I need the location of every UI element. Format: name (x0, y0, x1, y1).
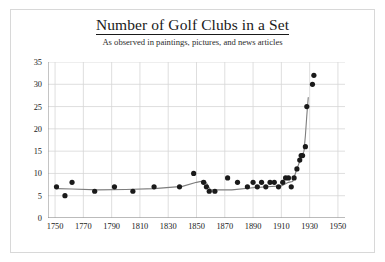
data-point (69, 180, 74, 185)
data-point (291, 175, 296, 180)
data-point (250, 180, 255, 185)
chart-title: Number of Golf Clubs in a Set (0, 16, 385, 34)
x-axis-tick-label: 1950 (318, 222, 358, 231)
y-axis-tick-label: 20 (18, 124, 42, 133)
data-point (311, 73, 316, 78)
data-point (304, 104, 309, 109)
data-point (289, 184, 294, 189)
y-axis-tick-label: 25 (18, 102, 42, 111)
data-point (294, 166, 299, 171)
y-axis-tick-label: 35 (18, 58, 42, 67)
data-point (151, 184, 156, 189)
gridlines (48, 62, 345, 218)
trend-line (56, 98, 308, 190)
y-axis-tick-label: 10 (18, 169, 42, 178)
data-point (276, 184, 281, 189)
data-point (263, 184, 268, 189)
data-point (272, 180, 277, 185)
chart-subtitle: As observed in paintings, pictures, and … (0, 37, 385, 47)
y-axis-tick-label: 5 (18, 191, 42, 200)
data-point (204, 184, 209, 189)
data-point (207, 189, 212, 194)
data-point (303, 144, 308, 149)
data-point (54, 184, 59, 189)
data-point (310, 82, 315, 87)
data-point (225, 175, 230, 180)
data-point (130, 189, 135, 194)
y-axis-tick-label: 30 (18, 80, 42, 89)
data-point (201, 180, 206, 185)
data-point (245, 184, 250, 189)
data-point (191, 171, 196, 176)
y-axis-tick-label: 15 (18, 147, 42, 156)
data-point (255, 184, 260, 189)
data-point (177, 184, 182, 189)
data-point (92, 189, 97, 194)
data-point (235, 180, 240, 185)
chart-title-text: Number of Golf Clubs in a Set (96, 16, 289, 35)
data-point (62, 193, 67, 198)
data-points (54, 73, 317, 199)
data-point (212, 189, 217, 194)
data-point (259, 180, 264, 185)
data-point (112, 184, 117, 189)
chart-canvas (48, 62, 345, 218)
data-point (297, 157, 302, 162)
data-point (300, 153, 305, 158)
data-point (280, 180, 285, 185)
chart-figure: Number of Golf Clubs in a Set As observe… (0, 0, 385, 262)
data-point (286, 175, 291, 180)
plot-area: 05101520253035 1750177017901810183018501… (48, 62, 345, 218)
